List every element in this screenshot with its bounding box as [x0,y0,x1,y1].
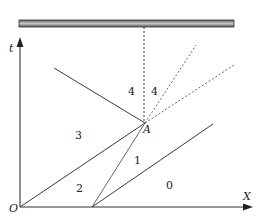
line-P-right [92,124,213,207]
point-A-label: A [142,123,151,136]
t-axis-label: t [9,42,14,55]
t-axis-arrow-icon [17,37,24,47]
region-3-label: 3 [75,129,82,142]
x-axis-label: X [242,190,252,203]
region-1-label: 1 [134,154,141,167]
region-2-label: 2 [76,182,83,195]
dashed-fan-2 [145,65,234,123]
x-axis-arrow-icon [243,204,253,211]
wall-bar [19,20,234,27]
region-4-right-label: 4 [151,85,158,98]
region-0-label: 0 [166,179,173,192]
wave-diagram: t X O A 0 1 2 3 4 4 [0,0,263,217]
origin-label: O [9,202,18,215]
region-4-left-label: 4 [128,85,135,98]
dashed-fan-1 [145,45,196,123]
